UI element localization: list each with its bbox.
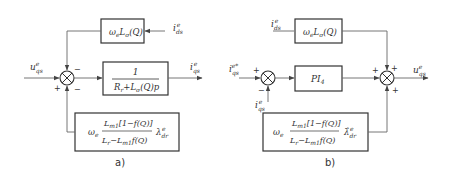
feedback-label-b: iqse [255, 98, 265, 113]
summing-junction-b1 [261, 71, 275, 85]
summing-junction-a [60, 71, 74, 85]
ref-label-b: iqse* [229, 62, 239, 77]
panel-a: uqse + − − ωeLσ(Q) idse 1 Rr+Lσ(Q)p iqse… [24, 19, 202, 168]
output-label-b: uqse [413, 63, 426, 78]
output-label-a: iqse [190, 60, 200, 75]
sign-plus-a: + [54, 84, 61, 93]
sign-plus-top-b2: + [391, 64, 398, 73]
sign-minus-b1: − [258, 86, 265, 95]
sign-plus-bottom-b2: + [392, 86, 399, 95]
sign-minus-top-a: − [74, 65, 81, 74]
top-feedback-wire-a [67, 31, 101, 70]
tf-numerator-a: 1 [133, 67, 139, 77]
bottom-feedforward-wire-b [368, 86, 387, 132]
sign-minus-bottom-a: − [74, 85, 81, 94]
ids-label-a: idse [173, 21, 183, 35]
panel-b: iqse* + − iqse PI4 + idse ωeLσ(Q) + [229, 17, 428, 169]
caption-b: b) [325, 157, 335, 168]
ids-label-b: idse [271, 17, 281, 31]
block-diagrams: uqse + − − ωeLσ(Q) idse 1 Rr+Lσ(Q)p iqse… [0, 0, 449, 178]
sign-plus-b1: + [253, 66, 260, 75]
top-feedforward-wire-b [342, 31, 387, 70]
summing-junction-b2 [380, 71, 394, 85]
input-label-a: uqse [30, 60, 43, 75]
sign-plus-left-b2: + [372, 66, 379, 75]
caption-a: a) [115, 157, 125, 168]
